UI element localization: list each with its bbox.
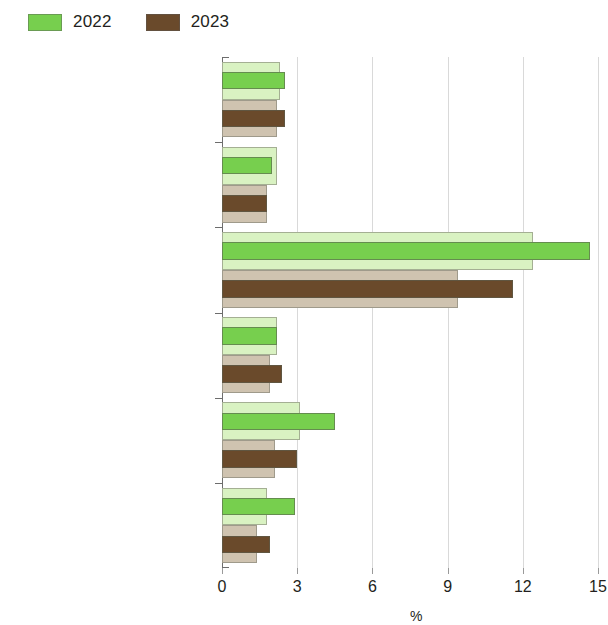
bar-2023-value bbox=[222, 365, 282, 382]
bar-2022-value bbox=[222, 327, 277, 344]
legend-item-2022: 2022 bbox=[28, 12, 112, 32]
x-tick-label-0: 0 bbox=[218, 578, 227, 596]
legend-swatch-2023 bbox=[146, 14, 180, 31]
bar-group bbox=[222, 313, 598, 398]
x-tick-mark-12 bbox=[523, 568, 524, 574]
chart-plot-area: East AsiaHong Kong, ChinaMongoliaPeople'… bbox=[222, 57, 598, 568]
x-tick-mark-9 bbox=[448, 568, 449, 574]
x-tick-mark-15 bbox=[598, 568, 599, 574]
x-tick-mark-3 bbox=[297, 568, 298, 574]
bar-2023-value bbox=[222, 110, 285, 127]
bar-group bbox=[222, 398, 598, 483]
gridline-15 bbox=[598, 57, 599, 568]
x-tick-label-3: 3 bbox=[293, 578, 302, 596]
bar-group bbox=[222, 483, 598, 568]
y-axis-tick bbox=[215, 483, 222, 484]
bar-2023-value bbox=[222, 450, 297, 467]
bar-2022-value bbox=[222, 242, 590, 259]
x-tick-label-15: 15 bbox=[589, 578, 607, 596]
bar-2022-value bbox=[222, 498, 295, 515]
bar-2023-value bbox=[222, 536, 270, 553]
bar-2022-value bbox=[222, 72, 285, 89]
legend-label-2022: 2022 bbox=[73, 12, 112, 32]
x-tick-mark-0 bbox=[222, 568, 223, 574]
y-axis-tick bbox=[215, 398, 222, 399]
bar-2023-value bbox=[222, 280, 513, 297]
x-tick-label-9: 9 bbox=[443, 578, 452, 596]
bar-group bbox=[222, 227, 598, 312]
x-tick-label-12: 12 bbox=[514, 578, 532, 596]
x-tick-label-6: 6 bbox=[368, 578, 377, 596]
y-axis-tick bbox=[215, 227, 222, 228]
bar-2022-value bbox=[222, 413, 335, 430]
legend-label-2023: 2023 bbox=[191, 12, 230, 32]
x-tick-mark-6 bbox=[372, 568, 373, 574]
y-axis-tick bbox=[215, 142, 222, 143]
x-axis-title: % bbox=[410, 608, 422, 624]
legend-swatch-2022 bbox=[28, 14, 62, 31]
bar-group bbox=[222, 142, 598, 227]
bar-2022-value bbox=[222, 157, 272, 174]
bar-2023-value bbox=[222, 195, 267, 212]
chart-legend: 2022 2023 bbox=[28, 12, 229, 32]
bar-group bbox=[222, 57, 598, 142]
y-axis-tick bbox=[215, 313, 222, 314]
legend-item-2023: 2023 bbox=[146, 12, 230, 32]
